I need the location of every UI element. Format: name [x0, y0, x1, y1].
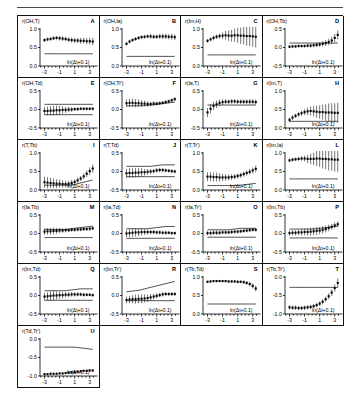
data-point-marker: [77, 39, 79, 41]
data-point-marker: [77, 293, 79, 295]
panel-a: r(OH,T)A0.00.51.0-3-113ln(Δt+0.1): [18, 16, 100, 78]
x-tick-label: -3: [287, 69, 292, 75]
data-point-marker: [306, 306, 308, 308]
data-series: [43, 105, 93, 115]
data-point-marker: [149, 296, 151, 298]
data-point-marker: [74, 39, 76, 41]
data-point-marker: [143, 171, 145, 173]
x-tick-label: -1: [139, 131, 144, 137]
data-point-marker: [170, 232, 172, 234]
y-tick-label: 0.5: [274, 106, 281, 112]
data-point-marker: [219, 176, 221, 178]
x-tick-label: -1: [139, 193, 144, 199]
data-point-marker: [297, 158, 299, 160]
data-point-marker: [80, 370, 82, 372]
plot-area: -0.50.00.5-3-113ln(Δt+0.1): [18, 202, 100, 264]
data-point-marker: [246, 172, 248, 174]
y-tick-label: 1.0: [193, 274, 200, 280]
x-tick-label: -1: [57, 193, 62, 199]
data-point-marker: [43, 110, 45, 112]
data-point-marker: [59, 109, 61, 111]
plot-area: -0.50.00.5-3-113ln(Δt+0.1): [263, 16, 345, 78]
y-tick-label: 0.0: [193, 311, 200, 317]
data-series: [206, 228, 256, 235]
y-tick-label: 0.5: [111, 274, 118, 280]
data-point-marker: [219, 232, 221, 234]
data-point-marker: [65, 38, 67, 40]
data-point-marker: [74, 229, 76, 231]
data-point-marker: [294, 232, 296, 234]
data-point-marker: [170, 170, 172, 172]
plot-area: 0.00.51.0-3-113ln(Δt+0.1): [18, 140, 100, 202]
data-point-marker: [131, 39, 133, 41]
data-point-marker: [62, 183, 64, 185]
x-tick-label: -3: [287, 193, 292, 199]
data-point-marker: [46, 38, 48, 40]
data-point-marker: [77, 108, 79, 110]
data-point-marker: [65, 294, 67, 296]
data-point-marker: [206, 232, 208, 234]
data-point-marker: [336, 223, 338, 225]
x-tick-label: -1: [302, 69, 307, 75]
x-tick-label: 3: [333, 131, 336, 137]
data-point-marker: [216, 280, 218, 282]
data-point-marker: [243, 101, 245, 103]
y-tick-label: -0.5: [191, 249, 200, 255]
data-point-marker: [89, 369, 91, 371]
data-point-marker: [249, 283, 251, 285]
data-point-marker: [152, 103, 154, 105]
y-tick-label: -0.5: [28, 311, 37, 317]
data-point-marker: [71, 39, 73, 41]
data-point-marker: [56, 109, 58, 111]
data-point-marker: [219, 102, 221, 104]
x-tick-label: -3: [124, 69, 129, 75]
data-point-marker: [255, 287, 257, 289]
data-point-marker: [231, 100, 233, 102]
data-point-marker: [212, 232, 214, 234]
data-point-marker: [225, 101, 227, 103]
data-series: [206, 99, 256, 117]
data-point-marker: [152, 36, 154, 38]
data-point-marker: [134, 231, 136, 233]
data-point-marker: [152, 170, 154, 172]
x-tick-label: 3: [333, 193, 336, 199]
panel-t: r(Tb,Tr')T-1.0-0.50.0-3-113ln(Δt+0.1): [263, 264, 345, 326]
plot-area: -0.50.00.5-3-113ln(Δt+0.1): [18, 264, 100, 326]
data-point-marker: [170, 293, 172, 295]
data-point-marker: [134, 102, 136, 104]
data-point-marker: [131, 172, 133, 174]
data-point-marker: [234, 280, 236, 282]
y-tick-label: 0.5: [30, 212, 37, 218]
x-tick-label: 3: [88, 69, 91, 75]
data-point-marker: [288, 119, 290, 121]
data-point-marker: [252, 169, 254, 171]
x-tick-label: 3: [170, 193, 173, 199]
panel-b: r(OH,Ia)B0.00.51.0-3-113ln(Δt+0.1): [100, 16, 182, 78]
y-tick-label: 0.5: [30, 44, 37, 50]
data-series: [288, 221, 338, 235]
panel-d: r(OH,Tb)D-0.50.00.5-3-113ln(Δt+0.1): [263, 16, 345, 78]
x-tick-label: 1: [318, 193, 321, 199]
data-point-marker: [318, 303, 320, 305]
x-tick-label: 1: [318, 255, 321, 261]
data-point-marker: [240, 35, 242, 37]
data-point-marker: [288, 46, 290, 48]
data-point-marker: [228, 280, 230, 282]
data-point-marker: [222, 35, 224, 37]
data-point-marker: [128, 299, 130, 301]
data-point-marker: [246, 229, 248, 231]
data-point-marker: [49, 295, 51, 297]
data-point-marker: [68, 108, 70, 110]
data-series: [125, 292, 175, 303]
y-tick-label: 0.5: [274, 212, 281, 218]
x-axis-label: ln(Δt+0.1): [148, 307, 171, 313]
data-point-marker: [92, 227, 94, 229]
data-point-marker: [158, 231, 160, 233]
data-point-marker: [74, 371, 76, 373]
panel-m: r(Ia,Tb)M-0.50.00.5-3-113ln(Δt+0.1): [18, 202, 100, 264]
data-series: [288, 30, 338, 48]
data-point-marker: [315, 44, 317, 46]
x-tick-label: 1: [318, 69, 321, 75]
y-tick-label: -0.5: [109, 249, 118, 255]
data-point-marker: [167, 36, 169, 38]
